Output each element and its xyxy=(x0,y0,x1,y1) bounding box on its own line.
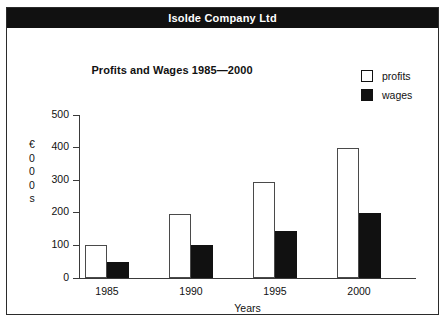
bar-wages-1985 xyxy=(107,262,129,278)
bar-wages-1990 xyxy=(191,245,213,278)
bar-profits-1990 xyxy=(169,214,191,278)
x-tick-label-1990: 1990 xyxy=(156,285,226,297)
x-tick-label-1985: 1985 xyxy=(72,285,142,297)
x-tick-label-1995: 1995 xyxy=(240,285,310,297)
poster-frame: Isolde Company Ltd Profits and Wages 198… xyxy=(6,7,439,315)
bar-profits-2000 xyxy=(337,148,359,278)
bar-profits-1985 xyxy=(85,245,107,278)
bar-wages-2000 xyxy=(359,213,381,278)
bar-profits-1995 xyxy=(253,182,275,278)
bar-wages-1995 xyxy=(275,231,297,278)
bar-group xyxy=(7,8,438,323)
plot-area: € 0 0 0 s 0100200300400500 1985199019952… xyxy=(7,8,438,314)
x-tick-label-2000: 2000 xyxy=(324,285,394,297)
x-axis-title: Years xyxy=(79,302,416,314)
